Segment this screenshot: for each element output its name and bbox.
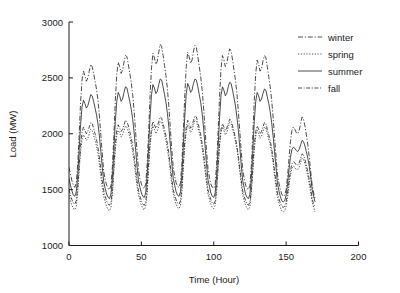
x-tick-label: 50 [136,251,147,262]
y-tick-label: 2500 [42,72,63,83]
x-tick-layer: 050100150200 [66,242,366,262]
y-tick-label: 1000 [42,240,63,251]
y-tick-label: 3000 [42,17,63,28]
legend-label-fall: fall [328,83,340,94]
series-layer [69,44,315,212]
x-tick-label: 150 [278,251,294,262]
load-profile-chart: 10001500200025003000 050100150200 Time (… [0,0,400,293]
chart-legend: winterspringsummerfall [298,32,362,94]
x-axis-label: Time (Hour) [189,274,239,285]
y-tick-layer: 10001500200025003000 [42,17,73,252]
y-axis-label: Load (MW) [7,111,18,158]
y-tick-label: 2000 [42,128,63,139]
series-line-winter [69,44,315,198]
axis-spines [69,22,359,246]
x-tick-label: 200 [351,251,367,262]
chart-figure: 10001500200025003000 050100150200 Time (… [0,0,400,293]
y-tick-label: 1500 [42,184,63,195]
x-tick-label: 0 [66,251,71,262]
legend-label-summer: summer [328,66,362,77]
legend-label-spring: spring [328,49,354,60]
x-tick-label: 100 [206,251,222,262]
legend-label-winter: winter [327,32,353,43]
